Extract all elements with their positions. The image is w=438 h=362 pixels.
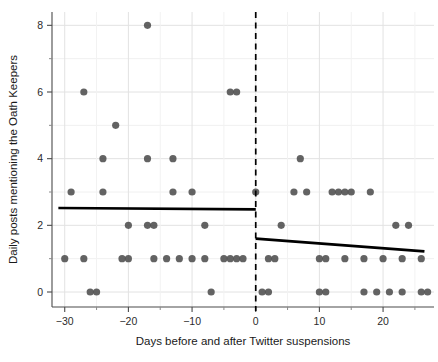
x-tick-label: 20 — [377, 315, 389, 327]
scatter-point — [144, 155, 151, 162]
fit-lines — [58, 208, 424, 251]
scatter-point — [163, 255, 170, 262]
scatter-point — [208, 288, 215, 295]
scatter-point — [220, 255, 227, 262]
scatter-point — [290, 188, 297, 195]
scatter-point — [144, 22, 151, 29]
scatter-point — [271, 255, 278, 262]
scatter-point — [386, 288, 393, 295]
scatter-point — [233, 88, 240, 95]
regression-line-pre-suspension-fit — [58, 208, 255, 209]
plot-canvas: 02468−30−20−1001020Days before and after… — [0, 0, 438, 362]
scatter-point — [392, 222, 399, 229]
scatter-point — [316, 255, 323, 262]
x-tick-label: 0 — [253, 315, 259, 327]
scatter-point — [80, 88, 87, 95]
scatter-point — [68, 188, 75, 195]
y-axis-title: Daily posts mentioning the Oath Keepers — [7, 55, 19, 264]
scatter-point — [87, 288, 94, 295]
scatter-point — [176, 255, 183, 262]
scatter-point — [322, 288, 329, 295]
scatter-point — [265, 255, 272, 262]
y-tick-label: 0 — [37, 286, 43, 298]
scatter-point — [188, 255, 195, 262]
scatter-point — [227, 255, 234, 262]
scatter-point — [329, 188, 336, 195]
x-axis-title: Days before and after Twitter suspension… — [136, 335, 351, 347]
x-tick-label: 10 — [314, 315, 326, 327]
scatter-point — [188, 188, 195, 195]
scatter-point — [297, 155, 304, 162]
scatter-point — [348, 188, 355, 195]
scatter-point — [278, 222, 285, 229]
scatter-point — [360, 255, 367, 262]
scatter-point — [201, 222, 208, 229]
scatter-point — [418, 288, 425, 295]
gridlines — [52, 12, 434, 307]
scatter-point — [259, 288, 266, 295]
scatter-point — [112, 122, 119, 129]
scatter-point — [150, 222, 157, 229]
scatter-point — [144, 222, 151, 229]
scatter-plot-figure: 02468−30−20−1001020Days before and after… — [0, 0, 438, 362]
scatter-point — [303, 188, 310, 195]
scatter-point — [367, 188, 374, 195]
scatter-point — [341, 255, 348, 262]
scatter-point — [61, 255, 68, 262]
regression-line-post-suspension-fit — [256, 239, 425, 252]
x-tick-label: −20 — [119, 315, 137, 327]
scatter-point — [373, 288, 380, 295]
scatter-point — [399, 255, 406, 262]
scatter-point — [80, 255, 87, 262]
y-tick-label: 2 — [37, 219, 43, 231]
x-tick-label: −10 — [183, 315, 201, 327]
scatter-point — [233, 255, 240, 262]
scatter-point — [322, 255, 329, 262]
scatter-point — [99, 155, 106, 162]
scatter-point — [93, 288, 100, 295]
scatter-point — [418, 255, 425, 262]
x-tick-label: −30 — [56, 315, 74, 327]
scatter-point — [405, 222, 412, 229]
scatter-point — [316, 288, 323, 295]
scatter-point — [125, 255, 132, 262]
scatter-point — [239, 255, 246, 262]
y-tick-label: 6 — [37, 86, 43, 98]
scatter-point — [118, 255, 125, 262]
scatter-point — [169, 188, 176, 195]
scatter-point — [399, 288, 406, 295]
scatter-point — [341, 188, 348, 195]
y-tick-label: 4 — [37, 152, 43, 164]
scatter-point — [169, 155, 176, 162]
scatter-point — [201, 255, 208, 262]
scatter-point — [424, 288, 431, 295]
scatter-point — [265, 288, 272, 295]
scatter-point — [360, 288, 367, 295]
scatter-point — [227, 88, 234, 95]
scatter-point — [379, 255, 386, 262]
tick-marks: 02468−30−20−1001020 — [37, 19, 415, 327]
axes — [52, 12, 434, 307]
scatter-point — [99, 188, 106, 195]
scatter-point — [150, 255, 157, 262]
y-tick-label: 8 — [37, 19, 43, 31]
scatter-point — [125, 222, 132, 229]
scatter-point — [335, 188, 342, 195]
